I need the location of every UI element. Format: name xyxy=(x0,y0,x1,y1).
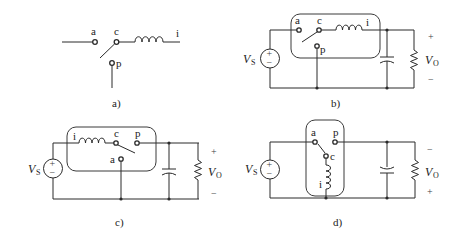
vo-sub: O xyxy=(433,171,439,180)
source-minus: − xyxy=(267,168,273,179)
caption-b: b) xyxy=(331,97,341,110)
panel-d-buck-boost: + − V S a p c i − V O + d) xyxy=(245,120,439,229)
capacitor-plate-top xyxy=(380,167,394,169)
junction-dot xyxy=(385,28,388,31)
label-p: p xyxy=(320,43,326,55)
terminal-c xyxy=(324,154,328,158)
label-c: c xyxy=(114,127,119,139)
vo-minus: − xyxy=(427,144,433,155)
switch-blade xyxy=(318,144,325,153)
inductor-icon xyxy=(336,25,362,30)
inductor-icon xyxy=(135,37,163,42)
label-i: i xyxy=(319,178,322,190)
vo-minus: − xyxy=(428,74,434,85)
label-a: a xyxy=(295,14,300,26)
inductor-icon xyxy=(79,138,105,143)
vo-minus: − xyxy=(211,188,217,199)
source-minus: − xyxy=(50,167,56,178)
junction-dot xyxy=(385,86,388,89)
switch-blade xyxy=(302,32,317,42)
label-a: a xyxy=(311,126,316,138)
label-c: c xyxy=(330,150,335,162)
vo-sub: O xyxy=(433,59,439,68)
caption-a: a) xyxy=(112,97,121,110)
label-a: a xyxy=(91,25,96,37)
junction-dot xyxy=(385,196,388,199)
vs-sub: S xyxy=(253,168,257,177)
terminal-p xyxy=(135,141,139,145)
label-p: p xyxy=(333,126,339,138)
terminal-c xyxy=(317,28,321,32)
terminal-p xyxy=(315,44,319,48)
terminal-a xyxy=(297,28,301,32)
source-minus: − xyxy=(267,57,273,68)
label-i: i xyxy=(73,130,76,142)
label-a: a xyxy=(110,153,115,165)
terminal-a xyxy=(313,140,317,144)
resistor-icon xyxy=(411,50,418,70)
label-c: c xyxy=(317,14,322,26)
vo-sub: O xyxy=(216,171,222,180)
label-i: i xyxy=(176,27,179,39)
label-p: p xyxy=(116,57,122,69)
switch-blade xyxy=(118,145,135,153)
panel-b-buck: + − V S a c p i + V O − b) xyxy=(243,14,439,110)
caption-c: c) xyxy=(115,216,124,229)
terminal-c xyxy=(114,141,118,145)
terminal-a xyxy=(119,157,123,161)
terminal-p xyxy=(110,61,115,66)
vo-plus: + xyxy=(427,186,433,197)
resistor-icon xyxy=(195,160,202,180)
switch-blade xyxy=(100,44,115,58)
converter-figure: a c p i a) + − V S xyxy=(0,0,459,239)
resistor-icon xyxy=(412,160,419,180)
label-p: p xyxy=(135,127,141,139)
vs-sub: S xyxy=(36,168,40,177)
terminal-c xyxy=(114,40,119,45)
terminal-a xyxy=(93,40,98,45)
junction-dot xyxy=(385,140,388,143)
panel-a-switch-cell: a c p i a) xyxy=(62,25,180,110)
label-i: i xyxy=(366,16,369,28)
vo-plus: + xyxy=(428,31,434,42)
junction-dot xyxy=(119,197,122,200)
junction-dot xyxy=(167,197,170,200)
inductor-icon xyxy=(326,165,331,189)
label-c: c xyxy=(114,25,119,37)
vo-plus: + xyxy=(211,146,217,157)
caption-d: d) xyxy=(333,216,343,229)
vs-sub: S xyxy=(251,58,255,67)
terminal-p xyxy=(333,140,337,144)
panel-c-boost: + − V S i c p a + V xyxy=(28,127,240,229)
junction-dot xyxy=(315,86,318,89)
junction-dot xyxy=(324,196,327,199)
junction-dot xyxy=(167,141,170,144)
